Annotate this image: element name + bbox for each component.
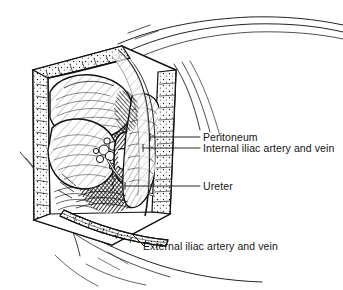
label-external-iliac: External iliac artery and vein xyxy=(143,240,278,252)
label-ureter: Ureter xyxy=(203,180,233,192)
anatomical-figure: Peritoneum Internal iliac artery and vei… xyxy=(0,0,343,290)
label-internal-iliac: Internal iliac artery and vein xyxy=(203,142,334,154)
